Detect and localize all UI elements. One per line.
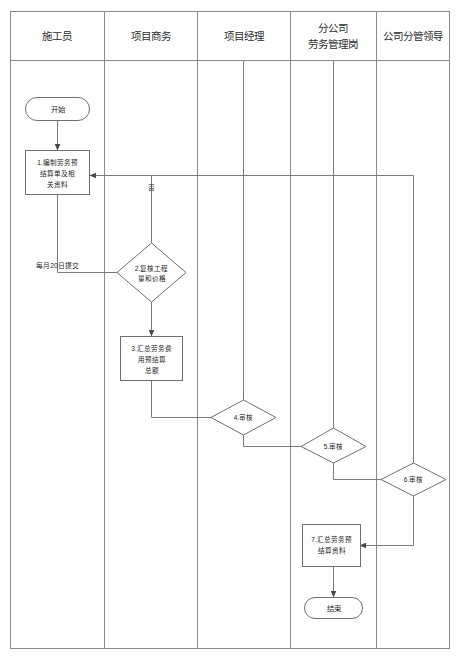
node-step7[interactable]: 7.汇总劳务预 结算资料	[303, 525, 361, 567]
lane-header-4-line1: 分公司	[318, 22, 348, 34]
step7-label-line1: 7.汇总劳务预	[311, 535, 352, 544]
edge-label-reject: 否	[148, 184, 155, 192]
step4-label: 4.审核	[234, 413, 254, 422]
lane-header-1: 施工员	[42, 30, 72, 42]
step2-shape	[117, 243, 186, 302]
step1-label-line3: 关资料	[47, 180, 68, 189]
step7-shape	[303, 525, 361, 567]
node-step6[interactable]: 6.审核	[381, 463, 446, 496]
lane-header-5: 公司分管领导	[383, 30, 443, 42]
node-step3[interactable]: 3.汇总劳务费 用预结算 总额	[121, 337, 183, 381]
step2-label-line1: 2.复核工程	[135, 264, 169, 273]
step5-label: 5.审核	[324, 442, 344, 451]
node-step2[interactable]: 2.复核工程 量和价格	[117, 243, 186, 302]
connector-step4-to-step5	[244, 435, 311, 447]
step1-label-line2: 结算单及相	[40, 169, 75, 178]
end-label: 结束	[327, 604, 342, 613]
step3-label-line2: 用预结算	[138, 355, 166, 364]
lane-header-4-line2: 劳务管理岗	[308, 38, 358, 50]
step3-label-line3: 总额	[145, 366, 159, 375]
node-end[interactable]: 结束	[305, 598, 363, 619]
step2-label-line2: 量和价格	[138, 274, 166, 283]
edge-label-submit: 每月20日提交	[36, 261, 79, 270]
connector-step5-to-step6	[334, 463, 391, 480]
lane-header-3: 项目经理	[224, 30, 265, 42]
lane-header-2: 项目商务	[131, 30, 172, 42]
connector-step1-to-step2	[58, 195, 129, 273]
connector-step6-to-step7	[360, 496, 414, 546]
node-step4[interactable]: 4.审核	[211, 400, 276, 435]
step6-label: 6.审核	[404, 475, 424, 484]
step1-label-line1: 1.编制劳务预	[37, 158, 78, 167]
connector-step3-to-step4	[152, 381, 221, 418]
step3-label-line1: 3.汇总劳务费	[131, 344, 172, 353]
start-label: 开始	[51, 105, 66, 114]
flowchart-page: 施工员 项目商务 项目经理 分公司 劳务管理岗 公司分管领导	[0, 0, 460, 659]
node-step1[interactable]: 1.编制劳务预 结算单及相 关资料	[26, 151, 90, 195]
step7-label-line2: 结算资料	[318, 546, 346, 555]
flowchart-canvas: 施工员 项目商务 项目经理 分公司 劳务管理岗 公司分管领导	[0, 0, 460, 659]
node-start[interactable]: 开始	[26, 98, 90, 121]
node-step5[interactable]: 5.审核	[301, 428, 366, 463]
